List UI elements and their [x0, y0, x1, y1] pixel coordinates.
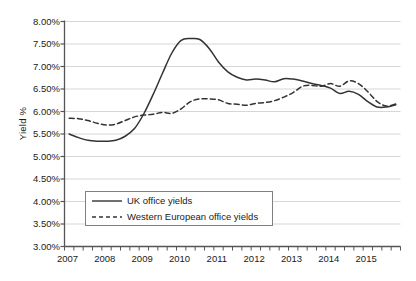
legend-label-uk: UK office yields — [127, 196, 192, 206]
x-axis-tick-label: 2009 — [132, 254, 153, 264]
legend-swatch-solid-icon — [92, 196, 122, 206]
series-line-uk — [69, 38, 396, 141]
x-axis-tick-label: 2008 — [94, 254, 115, 264]
series-line-western-european — [69, 81, 396, 125]
legend-label-western-european: Western European office yields — [127, 212, 258, 222]
legend-swatch-dashed-icon — [92, 212, 122, 222]
yield-line-chart: Yield % 8.00%7.50%7.00%6.50%6.00%5.50%5.… — [0, 0, 416, 281]
x-axis-tick-label: 2013 — [281, 254, 302, 264]
legend-item-uk: UK office yields — [92, 194, 192, 208]
x-axis-tick-label: 2010 — [169, 254, 190, 264]
legend-item-western-european: Western European office yields — [92, 210, 258, 224]
x-axis-tick-label: 2012 — [244, 254, 265, 264]
x-axis-tick-label: 2015 — [356, 254, 377, 264]
x-axis-tick-label: 2007 — [57, 254, 78, 264]
x-axis-tick-label: 2011 — [207, 254, 227, 264]
x-axis-tick-label: 2014 — [318, 254, 339, 264]
plot-area — [0, 0, 416, 281]
chart-legend: UK office yields Western European office… — [85, 191, 273, 226]
